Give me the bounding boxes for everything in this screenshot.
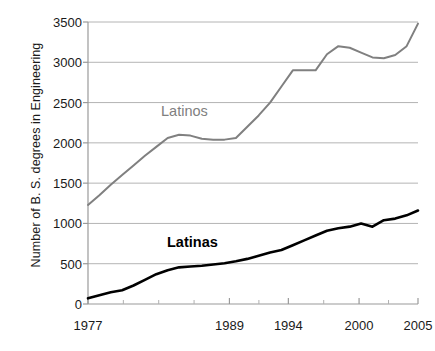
series-label-latinas: Latinas [167, 234, 218, 250]
data-series-lines [88, 24, 418, 299]
gridlines [88, 22, 418, 264]
y-tick-label: 0 [38, 297, 82, 312]
y-tick-label: 3500 [38, 15, 82, 30]
x-tick-label: 1977 [74, 318, 103, 333]
series-label-latinos: Latinos [161, 103, 208, 119]
y-tick-label: 1500 [38, 176, 82, 191]
chart-figure: Number of B. S. degrees in Engineering 0… [0, 0, 435, 351]
x-tick-label: 2005 [404, 318, 433, 333]
x-tick-label: 2000 [345, 318, 374, 333]
y-tick-label: 500 [38, 256, 82, 271]
y-tick-label: 2500 [38, 95, 82, 110]
y-axis-ticks [83, 22, 88, 304]
y-axis-tick-labels: 0500100015002000250030003500 [34, 0, 82, 351]
x-axis-ticks [88, 298, 418, 304]
y-tick-label: 2000 [38, 135, 82, 150]
series-line-latinos [88, 24, 418, 205]
y-tick-label: 1000 [38, 216, 82, 231]
x-tick-label: 1989 [215, 318, 244, 333]
x-tick-label: 1994 [274, 318, 303, 333]
y-tick-label: 3000 [38, 55, 82, 70]
